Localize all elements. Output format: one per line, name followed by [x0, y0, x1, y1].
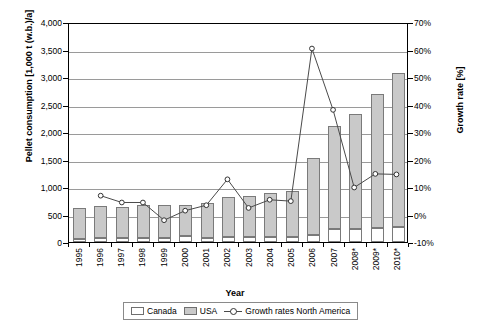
growth-rate-marker[interactable]	[310, 46, 315, 51]
growth-rate-marker[interactable]	[267, 197, 272, 202]
x-axis-tick-mark	[238, 243, 239, 247]
legend-item-canada: Canada	[131, 306, 177, 316]
x-axis-tick-label: 1999	[159, 248, 169, 267]
x-axis-tick-label: 2004	[265, 248, 275, 267]
y-axis-right-tick-label: -10%	[414, 238, 458, 248]
y-axis-left-tick-label: 1,500	[14, 156, 62, 166]
x-axis-tick-label: 2005	[286, 248, 296, 267]
legend-item-usa: USA	[184, 306, 217, 316]
growth-rate-marker[interactable]	[162, 218, 167, 223]
x-axis-tick-label: 1997	[116, 248, 126, 267]
y-axis-right-tick-label: 0%	[414, 211, 458, 221]
x-axis-tick-label: 2010*	[392, 248, 402, 270]
x-axis-tick-label: 2003	[244, 248, 254, 267]
y-axis-left-tick-label: 4,000	[14, 18, 62, 28]
x-axis-tick-mark	[68, 243, 69, 247]
y-axis-right-tick-label: 20%	[414, 156, 458, 166]
y-axis-right-tick-label: 40%	[414, 101, 458, 111]
y-axis-right-tick-label: 10%	[414, 183, 458, 193]
y-axis-right-tick-mark	[408, 51, 413, 52]
x-axis-tick-mark	[217, 243, 218, 247]
x-axis-tick-mark	[408, 243, 409, 247]
x-axis-tick-label: 2001	[201, 248, 211, 267]
growth-rate-marker[interactable]	[98, 193, 103, 198]
y-axis-left-tick-label: 2,000	[14, 128, 62, 138]
plot-area	[68, 23, 408, 243]
growth-rate-marker[interactable]	[288, 199, 293, 204]
y-axis-left-tick-label: 0	[14, 238, 62, 248]
y-axis-left-tick-label: 500	[14, 211, 62, 221]
legend-label-growth-rates: Growth rates North America	[245, 306, 350, 316]
y-axis-left-tick-label: 3,500	[14, 46, 62, 56]
x-axis-tick-mark	[344, 243, 345, 247]
x-axis-tick-mark	[366, 243, 367, 247]
x-axis-tick-mark	[281, 243, 282, 247]
growth-rate-marker[interactable]	[204, 203, 209, 208]
growth-rate-marker[interactable]	[183, 208, 188, 213]
x-axis-tick-label: 1995	[74, 248, 84, 267]
legend-label-canada: Canada	[147, 306, 177, 316]
growth-rate-marker[interactable]	[394, 172, 399, 177]
y-axis-right-tick-mark	[408, 106, 413, 107]
y-axis-right-tick-label: 70%	[414, 18, 458, 28]
canada-swatch-icon	[131, 307, 144, 315]
x-axis-tick-label: 2006	[307, 248, 317, 267]
legend-label-usa: USA	[200, 306, 217, 316]
x-axis-tick-mark	[387, 243, 388, 247]
growth-rate-marker[interactable]	[352, 185, 357, 190]
growth-rate-marker[interactable]	[331, 107, 336, 112]
y-axis-right-tick-label: 60%	[414, 46, 458, 56]
growth-rate-line-layer	[69, 24, 407, 242]
x-axis-tick-mark	[259, 243, 260, 247]
x-axis-tick-mark	[323, 243, 324, 247]
chart-container: Pellet consumption [1,000 t (w.b.)/a] Gr…	[0, 0, 500, 331]
y-axis-left-tick-label: 3,000	[14, 73, 62, 83]
growth-rate-marker[interactable]	[225, 177, 230, 182]
chart-legend: Canada USA Growth rates North America	[123, 302, 358, 320]
y-axis-right-tick-label: 50%	[414, 73, 458, 83]
growth-rate-line	[101, 49, 397, 221]
growth-rate-marker[interactable]	[246, 206, 251, 211]
growth-rate-marker[interactable]	[141, 200, 146, 205]
y-axis-right-tick-mark	[408, 188, 413, 189]
x-axis-tick-label: 1998	[137, 248, 147, 267]
growth-rate-marker[interactable]	[119, 200, 124, 205]
y-axis-right-tick-mark	[408, 216, 413, 217]
x-axis-tick-label: 2007	[329, 248, 339, 267]
x-axis-tick-mark	[132, 243, 133, 247]
x-axis-tick-mark	[153, 243, 154, 247]
x-axis-tick-label: 2000	[180, 248, 190, 267]
y-axis-right-tick-mark	[408, 78, 413, 79]
legend-item-growth-rates: Growth rates North America	[224, 306, 350, 316]
y-axis-right-tick-mark	[408, 161, 413, 162]
x-axis-tick-label: 2009*	[371, 248, 381, 270]
growth-line-marker-icon	[224, 307, 242, 315]
y-axis-left-tick-label: 2,500	[14, 101, 62, 111]
x-axis-tick-label: 2008*	[350, 248, 360, 270]
growth-rate-marker[interactable]	[373, 171, 378, 176]
y-axis-right-tick-mark	[408, 23, 413, 24]
usa-swatch-icon	[184, 307, 197, 315]
y-axis-left-tick-label: 1,000	[14, 183, 62, 193]
x-axis-tick-mark	[196, 243, 197, 247]
x-axis-tick-label: 2002	[222, 248, 232, 267]
x-axis-tick-mark	[174, 243, 175, 247]
x-axis-tick-mark	[89, 243, 90, 247]
y-axis-right-tick-mark	[408, 133, 413, 134]
x-axis-tick-label: 1996	[95, 248, 105, 267]
x-axis-tick-mark	[302, 243, 303, 247]
y-axis-right-tick-label: 30%	[414, 128, 458, 138]
x-axis-title: Year	[0, 288, 470, 298]
x-axis-tick-mark	[111, 243, 112, 247]
